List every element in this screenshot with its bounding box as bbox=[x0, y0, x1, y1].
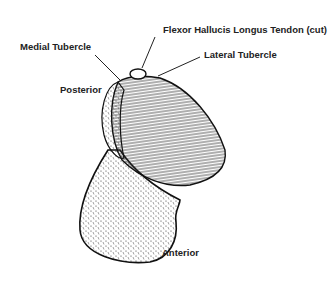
medial-leader-line bbox=[95, 55, 120, 80]
tendon-cut-end bbox=[130, 69, 146, 79]
lateral-leader-line bbox=[158, 57, 200, 76]
label-flexor-tendon: Flexor Hallucis Longus Tendon (cut) bbox=[163, 24, 327, 35]
medial-lobe bbox=[102, 82, 124, 158]
tendon-leader-line bbox=[142, 37, 155, 68]
label-posterior: Posterior bbox=[60, 84, 102, 95]
label-anterior: Anterior bbox=[162, 247, 199, 258]
label-medial-tubercle: Medial Tubercle bbox=[20, 41, 91, 52]
anatomy-figure: Flexor Hallucis Longus Tendon (cut) Medi… bbox=[0, 0, 334, 284]
label-lateral-tubercle: Lateral Tubercle bbox=[204, 49, 277, 60]
